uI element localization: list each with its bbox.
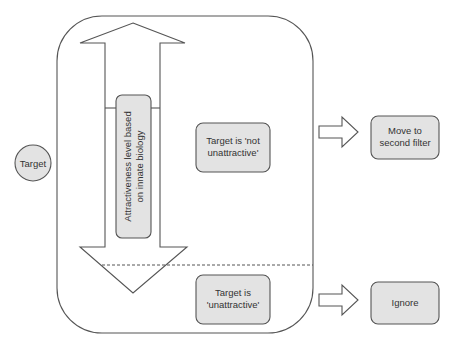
svg-text:on innate biology: on innate biology xyxy=(134,130,145,202)
outcome-not-unattractive-line2: unattractive' xyxy=(208,147,259,158)
arrow-right-icon xyxy=(319,285,358,315)
outcome-not-unattractive-line1: Target is 'not xyxy=(206,135,260,146)
outcome-unattractive-line1: Target is xyxy=(215,287,251,298)
action-second-filter-line1: Move to xyxy=(388,125,422,136)
diagram-canvas: Attractiveness level based on innate bio… xyxy=(0,0,453,345)
action-second-filter-line2: second filter xyxy=(379,137,430,148)
filter-container xyxy=(57,16,313,333)
arrow-right-icon xyxy=(319,117,358,147)
svg-text:Attractiveness level based: Attractiveness level based xyxy=(122,111,133,221)
outcome-unattractive-line2: 'unattractive' xyxy=(207,299,260,310)
action-ignore-label: Ignore xyxy=(392,297,419,308)
target-label: Target xyxy=(20,158,47,169)
